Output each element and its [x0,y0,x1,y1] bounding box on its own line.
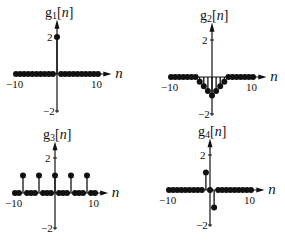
stem-marker [193,74,199,80]
x-tick-label: −10 [5,197,23,209]
y-tick-label: −2 [198,108,210,120]
x-tick-label: 10 [246,81,258,93]
stem-marker [197,79,203,85]
stem-marker [95,71,101,77]
stem-marker [54,34,60,40]
x-axis-label: n [268,181,276,197]
stem-marker [201,83,207,89]
y-tick-label: −2 [43,105,55,117]
stem-marker [84,173,90,179]
x-axis-arrow-icon [103,72,111,77]
stem-marker [36,173,42,179]
y-tick-label: 2 [47,31,53,43]
panel-g1: g1[n]n−10102−2 [6,5,123,117]
stem-marker [203,170,209,176]
x-tick-label: −10 [159,194,177,206]
y-tick-label: −2 [41,222,53,234]
stem-marker [217,83,223,89]
stem-marker [211,205,217,211]
x-axis-label: n [270,68,278,84]
plot-title: g4[n] [198,124,226,140]
stem-marker [16,190,22,196]
stem-marker [199,187,205,193]
panel-g3: g3[n]n−10102−2 [5,127,119,234]
x-axis-arrow-icon [258,75,266,80]
stem-marker [48,190,54,196]
stem-marker [213,88,219,94]
stem-marker [250,74,256,80]
x-tick-label: 10 [244,194,256,206]
stem-marker [221,79,227,85]
stem-marker [20,173,26,179]
plot-title: g2[n] [200,8,228,24]
x-axis-label: n [112,184,120,200]
x-tick-label: −10 [161,81,179,93]
panel-g4: g4[n]n−10102−2 [159,124,276,231]
plot-title: g3[n] [43,127,71,143]
stem-marker [68,173,74,179]
stem-marker [205,88,211,94]
y-tick-label: 2 [200,149,206,161]
stem-marker [64,190,70,196]
y-tick-label: 2 [45,152,51,164]
y-tick-label: 2 [202,34,208,46]
x-axis-arrow-icon [256,188,264,193]
stem-plot-grid: g1[n]n−10102−2 g2[n]n−10102−2 g3[n]n−101… [0,0,285,241]
stem-marker [248,187,254,193]
stem-marker [32,190,38,196]
stem-marker [80,190,86,196]
x-axis-arrow-icon [100,191,108,196]
stem-marker [207,187,213,193]
y-tick-label: −2 [196,219,208,231]
x-axis-label: n [115,65,123,81]
stem-marker [92,190,98,196]
x-tick-label: 10 [91,78,103,90]
stem-marker [50,71,56,77]
panel-g2: g2[n]n−10102−2 [161,8,278,120]
plot-title: g1[n] [45,5,73,21]
x-tick-label: −10 [6,78,24,90]
x-tick-label: 10 [88,197,100,209]
stem-marker [209,93,215,99]
stem-marker [52,173,58,179]
